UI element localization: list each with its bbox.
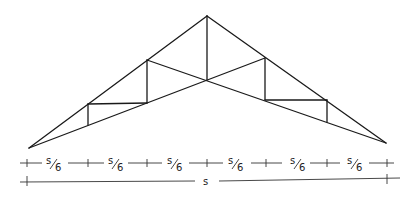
panel-label: s 6 (290, 155, 305, 173)
panel-label: s 6 (347, 155, 362, 173)
panel-dimension-row: s 6 s 6 s 6 s 6 s 6 s 6 (20, 155, 394, 173)
scissor-truss-diagram: s 6 s 6 s 6 s 6 s 6 s 6 (0, 0, 415, 198)
svg-text:s: s (108, 155, 113, 166)
bottom-chord-right (147, 60, 386, 143)
total-span-dimension: s (20, 174, 400, 187)
panel-label: s 6 (108, 155, 123, 173)
left-horizontal-strut (88, 103, 147, 104)
svg-text:6: 6 (55, 162, 61, 173)
svg-text:6: 6 (356, 162, 362, 173)
top-chord-left (29, 16, 207, 148)
top-chord-right (207, 16, 386, 143)
svg-text:s: s (46, 155, 51, 166)
svg-text:s: s (228, 155, 233, 166)
svg-text:6: 6 (176, 162, 182, 173)
svg-text:6: 6 (117, 162, 123, 173)
svg-text:6: 6 (237, 162, 243, 173)
panel-label: s 6 (46, 155, 61, 173)
panel-label: s 6 (167, 155, 182, 173)
total-span-label: s (203, 176, 208, 187)
svg-text:s: s (347, 155, 352, 166)
svg-text:s: s (167, 155, 172, 166)
panel-label: s 6 (228, 155, 243, 173)
svg-text:6: 6 (299, 162, 305, 173)
truss-members (29, 16, 386, 148)
svg-text:s: s (290, 155, 295, 166)
